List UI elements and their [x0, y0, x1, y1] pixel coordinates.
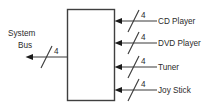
system-bus-connection: 4 System Bus — [8, 29, 67, 68]
device-label-dvd-player: DVD Player — [158, 39, 201, 48]
device-label-joy-stick: Joy Stick — [158, 86, 192, 95]
system-bus-label-line2: Bus — [18, 41, 32, 50]
device-arrowhead-icon-tuner — [115, 64, 123, 70]
device-connection-cd-player: 4 CD Player — [115, 10, 196, 32]
block-diagram-canvas: 4 System Bus 4 CD Player 4 DVD Player 4 … — [0, 0, 210, 110]
diagram-svg: 4 System Bus 4 CD Player 4 DVD Player 4 … — [0, 0, 210, 110]
device-connection-joy-stick: 4 Joy Stick — [115, 79, 192, 101]
device-arrowhead-icon-dvd-player — [115, 40, 123, 46]
system-bus-label-line1: System — [8, 29, 35, 38]
device-connection-dvd-player: 4 DVD Player — [115, 32, 202, 54]
device-width-label-tuner: 4 — [141, 57, 146, 66]
device-connection-tuner: 4 Tuner — [115, 56, 180, 78]
system-bus-arrowhead-icon — [26, 54, 34, 60]
device-width-label-dvd-player: 4 — [141, 33, 146, 42]
device-arrowhead-icon-cd-player — [115, 18, 123, 24]
device-label-cd-player: CD Player — [158, 17, 196, 26]
device-width-label-joy-stick: 4 — [141, 80, 146, 89]
system-bus-width-label: 4 — [54, 47, 59, 56]
device-arrowhead-icon-joy-stick — [115, 87, 123, 93]
device-label-tuner: Tuner — [158, 63, 179, 72]
interface-block — [68, 10, 115, 101]
device-width-label-cd-player: 4 — [141, 11, 146, 20]
